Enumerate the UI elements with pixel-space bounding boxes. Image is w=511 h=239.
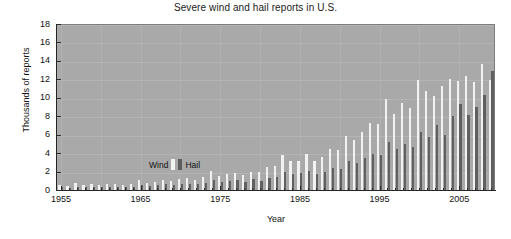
bar-hail: [340, 169, 342, 190]
x-tick-mark-minor: [427, 188, 428, 191]
bar-hail: [475, 107, 477, 190]
x-tick-mark: [459, 186, 460, 191]
x-tick-mark-minor: [252, 188, 253, 191]
x-tick-label: 1995: [360, 194, 400, 204]
x-tick-mark-minor: [101, 188, 102, 191]
x-tick-mark-minor: [395, 188, 396, 191]
x-tick-mark-minor: [364, 188, 365, 191]
x-tick-mark-minor: [236, 188, 237, 191]
x-tick-mark-minor: [340, 188, 341, 191]
bar-hail: [444, 135, 446, 190]
y-tick-label: 14: [10, 56, 50, 65]
bar-hail: [467, 115, 469, 190]
x-tick-mark-minor: [443, 188, 444, 191]
y-tick-mark: [57, 135, 61, 136]
x-tick-mark-minor: [93, 188, 94, 191]
y-tick-label: 8: [10, 112, 50, 121]
x-tick-mark-minor: [332, 188, 333, 191]
x-tick-mark-minor: [316, 188, 317, 191]
y-tick-mark: [57, 24, 61, 25]
bar-hail: [452, 116, 454, 190]
y-tick-mark: [57, 153, 61, 154]
x-tick-label: 1965: [121, 194, 161, 204]
x-tick-mark-minor: [157, 188, 158, 191]
x-tick-mark-minor: [149, 188, 150, 191]
x-tick-mark-minor: [196, 188, 197, 191]
bar-hail: [428, 137, 430, 190]
x-tick-mark-minor: [260, 188, 261, 191]
bar-hail: [483, 95, 485, 190]
x-tick-mark-minor: [133, 188, 134, 191]
x-tick-mark-minor: [387, 188, 388, 191]
gridline-vertical: [61, 25, 62, 190]
gridline-vertical: [101, 25, 102, 190]
legend-swatch-wind: [171, 159, 175, 170]
bar-hail: [380, 155, 382, 190]
legend-label-hail: Hail: [185, 160, 200, 170]
bar-hail: [348, 161, 350, 190]
legend-swatch-hail: [178, 159, 182, 170]
y-tick-mark: [57, 61, 61, 62]
y-tick-mark: [57, 79, 61, 80]
gridline-vertical: [141, 25, 142, 190]
gridline-horizontal: [57, 80, 494, 81]
bar-hail: [420, 132, 422, 190]
x-tick-mark-minor: [435, 188, 436, 191]
y-axis-line: [56, 24, 57, 191]
bar-hail: [372, 154, 374, 190]
x-tick-label: 1975: [200, 194, 240, 204]
chart-title: Severe wind and hail reports in U.S.: [0, 2, 511, 13]
gridline-vertical: [260, 25, 261, 190]
y-tick-label: 4: [10, 149, 50, 158]
gridline-horizontal: [57, 62, 494, 63]
bar-hail: [436, 125, 438, 190]
bar-hail: [459, 104, 461, 190]
x-tick-mark-minor: [324, 188, 325, 191]
x-tick-mark-minor: [308, 188, 309, 191]
x-tick-mark: [61, 186, 62, 191]
chart-figure: Severe wind and hail reports in U.S. Tho…: [0, 0, 511, 239]
legend-label-wind: Wind: [149, 160, 168, 170]
bar-hail: [396, 149, 398, 190]
x-tick-mark-minor: [356, 188, 357, 191]
gridline-horizontal: [57, 99, 494, 100]
bar-hail: [491, 71, 493, 190]
gridline-vertical: [220, 25, 221, 190]
x-tick-mark-minor: [419, 188, 420, 191]
x-tick-mark-minor: [204, 188, 205, 191]
x-tick-mark-minor: [475, 188, 476, 191]
x-tick-mark-minor: [483, 188, 484, 191]
bar-hail: [412, 147, 414, 190]
x-tick-mark-minor: [85, 188, 86, 191]
bar-hail: [332, 168, 334, 190]
x-tick-mark-minor: [411, 188, 412, 191]
x-tick-mark-minor: [491, 188, 492, 191]
x-tick-mark-minor: [467, 188, 468, 191]
x-tick-mark: [380, 186, 381, 191]
y-tick-label: 12: [10, 75, 50, 84]
x-tick-mark-minor: [212, 188, 213, 191]
x-tick-mark-minor: [125, 188, 126, 191]
bar-hail: [404, 144, 406, 190]
y-tick-label: 18: [10, 20, 50, 29]
y-tick-label: 16: [10, 38, 50, 47]
bar-hail: [356, 163, 358, 190]
x-tick-mark-minor: [165, 188, 166, 191]
x-tick-label: 1955: [41, 194, 81, 204]
x-tick-mark: [141, 186, 142, 191]
x-tick-mark-minor: [188, 188, 189, 191]
x-tick-mark-minor: [268, 188, 269, 191]
x-tick-mark-minor: [109, 188, 110, 191]
x-tick-mark-minor: [77, 188, 78, 191]
bar-hail: [388, 142, 390, 190]
plot-area: Wind Hail: [57, 24, 495, 190]
x-tick-mark-minor: [403, 188, 404, 191]
gridline-vertical: [300, 25, 301, 190]
x-tick-mark-minor: [292, 188, 293, 191]
x-tick-mark-minor: [228, 188, 229, 191]
x-tick-label: 2005: [439, 194, 479, 204]
y-tick-label: 10: [10, 93, 50, 102]
x-tick-mark-minor: [348, 188, 349, 191]
x-tick-mark-minor: [244, 188, 245, 191]
y-tick-mark: [57, 42, 61, 43]
